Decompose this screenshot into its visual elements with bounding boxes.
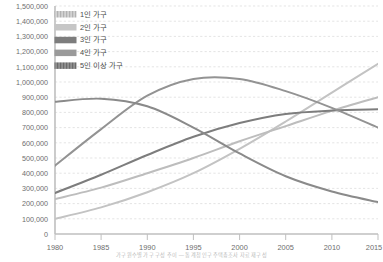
y-tick-label: 0 — [44, 230, 48, 239]
y-tick-label: 800,000 — [22, 108, 48, 117]
y-tick-label: 1,000,000 — [16, 78, 48, 87]
chart-canvas: 1,500,000 1,400,000 1,300,000 1,200,000 … — [0, 0, 383, 262]
legend-swatch-1in — [55, 11, 77, 18]
y-tick-label: 700,000 — [22, 123, 48, 132]
legend-label-2in: 2인 가구 — [80, 23, 107, 32]
legend-label-3in: 3인 가구 — [80, 35, 107, 44]
legend-swatch-5in — [55, 62, 77, 69]
legend-label-1in: 1인 가구 — [80, 10, 107, 19]
legend-swatch-2in — [55, 24, 77, 31]
y-tick-label: 500,000 — [22, 154, 48, 163]
y-tick-label: 900,000 — [22, 93, 48, 102]
y-tick-label: 100,000 — [22, 215, 48, 224]
legend-swatch-4in — [55, 50, 77, 57]
y-tick-label: 600,000 — [22, 139, 48, 148]
line-chart: 1,500,000 1,400,000 1,300,000 1,200,000 … — [0, 0, 383, 262]
y-tick-label: 400,000 — [22, 169, 48, 178]
legend-swatch-3in — [55, 37, 77, 44]
y-tick-label: 300,000 — [22, 184, 48, 193]
y-tick-label: 1,200,000 — [16, 47, 48, 56]
legend-label-4in: 4인 가구 — [80, 48, 107, 57]
y-tick-label: 200,000 — [22, 199, 48, 208]
y-tick-label: 1,400,000 — [16, 17, 48, 26]
y-tick-label: 1,500,000 — [16, 2, 48, 11]
legend-label-5in: 5인 이상 가구 — [80, 61, 123, 70]
y-tick-label: 1,300,000 — [16, 32, 48, 41]
y-tick-label: 1,100,000 — [16, 63, 48, 72]
chart-caption: 가구원수별 가구 구성 추이 ― 통계청 인구주택총조사 자료 재구성 — [0, 251, 383, 258]
